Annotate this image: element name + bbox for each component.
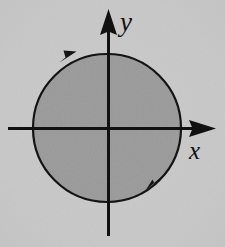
circle-with-axes-figure: y x [0,0,225,247]
x-axis-label: x [188,137,200,164]
figure-container: y x [0,0,225,247]
y-axis-label: y [117,7,132,37]
